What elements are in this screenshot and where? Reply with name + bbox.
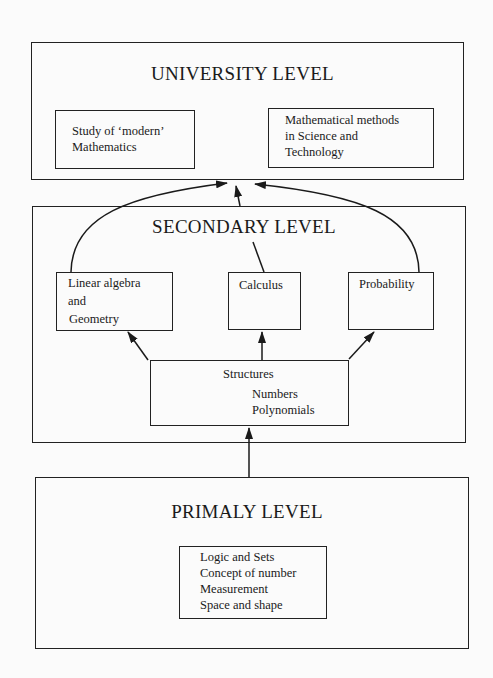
arrow-calculus-to-university-upper	[236, 186, 240, 206]
arrow-structures-to-linear-algebra	[128, 332, 148, 360]
arrow-structures-to-probability	[349, 332, 374, 359]
arrow-linear-algebra-to-university	[71, 183, 227, 272]
arrow-calculus-to-university-lower	[253, 242, 264, 272]
arrow-probability-to-university	[255, 184, 419, 272]
arrows-layer	[0, 0, 493, 678]
